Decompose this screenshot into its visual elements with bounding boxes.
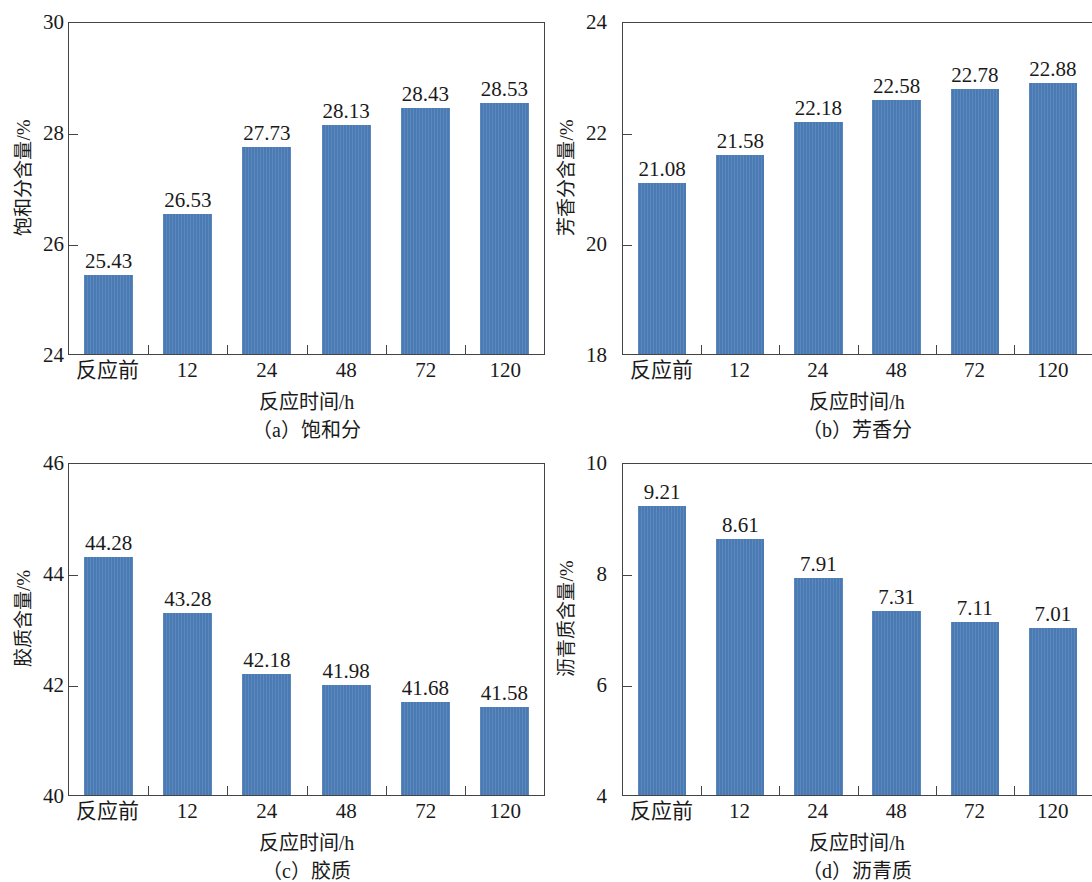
x-axis-tick-label: 120	[1037, 801, 1069, 822]
bar	[951, 89, 999, 354]
x-axis-tick-label: 48	[336, 360, 357, 381]
y-axis-tick-label: 30	[43, 12, 64, 33]
x-axis-tick-labels: 反应前12244872120	[622, 801, 1092, 831]
y-axis-tick	[69, 245, 78, 246]
bar	[794, 578, 842, 795]
bar-value-label: 7.11	[957, 598, 993, 619]
x-axis-tick-label: 72	[415, 801, 436, 822]
bar	[951, 622, 999, 795]
bar-value-label: 43.28	[164, 589, 211, 610]
y-axis-tick	[623, 575, 632, 576]
chart-panel-b: 芳香分含量/% 24222018 21.0821.5822.1822.5822.…	[543, 0, 1086, 441]
x-axis-tick-label: 48	[886, 801, 907, 822]
x-axis-tick	[701, 345, 702, 354]
x-axis-tick-label: 72	[415, 360, 436, 381]
y-axis-tick-label: 24	[43, 345, 64, 366]
panel-caption: （c）胶质	[68, 861, 545, 881]
x-axis-tick-label: 反应前	[76, 801, 139, 822]
y-axis-tick-label: 6	[597, 675, 608, 696]
bar	[716, 155, 764, 354]
bar	[638, 183, 686, 354]
x-axis-tick-labels: 反应前12244872120	[68, 360, 545, 390]
x-axis-tick-label: 24	[256, 360, 277, 381]
y-axis-tick	[69, 134, 78, 135]
bar-value-label: 41.68	[402, 678, 449, 699]
x-axis-tick-label: 72	[964, 801, 985, 822]
bar-value-label: 28.13	[322, 101, 369, 122]
bar	[872, 100, 920, 354]
bar	[322, 125, 371, 354]
bar	[84, 275, 133, 354]
bar-value-label: 22.78	[951, 65, 998, 86]
bar	[638, 506, 686, 795]
bar	[794, 122, 842, 354]
chart-panel-a: 饱和分含量/% 30282624 25.4326.5327.7328.1328.…	[0, 0, 543, 441]
x-axis-title: 反应时间/h	[622, 392, 1092, 412]
x-axis-tick	[148, 786, 149, 795]
plot-area: 44.2843.2842.1841.9841.6841.58	[68, 463, 545, 796]
bar	[716, 539, 764, 795]
y-axis-tick-label: 8	[597, 564, 608, 585]
y-axis-tick-labels: 10864	[569, 441, 607, 801]
plot-area: 21.0821.5822.1822.5822.7822.88	[622, 22, 1092, 355]
y-axis-tick-label: 42	[43, 675, 64, 696]
bar-value-label: 44.28	[85, 533, 132, 554]
y-axis-tick	[69, 575, 78, 576]
x-axis-tick-label: 12	[177, 360, 198, 381]
bar	[1029, 628, 1077, 795]
plot-area: 25.4326.5327.7328.1328.4328.53	[68, 22, 545, 355]
y-axis-tick-label: 20	[586, 234, 607, 255]
x-axis-tick-label: 48	[886, 360, 907, 381]
x-axis-tick-label: 12	[729, 360, 750, 381]
y-axis-tick-label: 46	[43, 453, 64, 474]
panel-caption: （a）饱和分	[68, 420, 545, 440]
x-axis-tick	[936, 786, 937, 795]
bar-value-label: 26.53	[164, 190, 211, 211]
bar	[84, 557, 133, 795]
bar	[242, 147, 291, 354]
chart-panel-c: 胶质含量/% 46444240 44.2843.2842.1841.9841.6…	[0, 441, 543, 882]
bar-value-label: 41.98	[322, 661, 369, 682]
x-axis-tick	[148, 345, 149, 354]
bar	[322, 685, 371, 795]
bar-value-label: 8.61	[722, 515, 759, 536]
x-axis-tick-label: 24	[256, 801, 277, 822]
x-axis-tick-labels: 反应前12244872120	[68, 801, 545, 831]
y-axis-tick	[623, 686, 632, 687]
x-axis-tick-label: 反应前	[76, 360, 139, 381]
bar-value-label: 28.53	[481, 79, 528, 100]
y-axis-tick-label: 22	[586, 123, 607, 144]
x-axis-tick	[465, 786, 466, 795]
x-axis-tick	[386, 786, 387, 795]
bar-value-label: 7.01	[1035, 604, 1072, 625]
x-axis-tick-label: 120	[490, 801, 522, 822]
y-axis-tick-label: 10	[586, 453, 607, 474]
bar-value-label: 22.88	[1029, 59, 1076, 80]
x-axis-tick-label: 120	[1037, 360, 1069, 381]
x-axis-tick-label: 72	[964, 360, 985, 381]
y-axis-tick-labels: 46444240	[26, 441, 64, 801]
bar-value-label: 22.58	[873, 76, 920, 97]
x-axis-tick-label: 12	[729, 801, 750, 822]
x-axis-tick	[1014, 786, 1015, 795]
x-axis-tick-label: 反应前	[630, 801, 693, 822]
x-axis-tick	[779, 786, 780, 795]
plot-area: 9.218.617.917.317.117.01	[622, 463, 1092, 796]
x-axis-tick-labels: 反应前12244872120	[622, 360, 1092, 390]
y-axis-tick	[623, 134, 632, 135]
x-axis-tick	[858, 345, 859, 354]
x-axis-tick	[1014, 345, 1015, 354]
y-axis-tick	[623, 245, 632, 246]
x-axis-tick-label: 24	[807, 801, 828, 822]
x-axis-tick	[307, 345, 308, 354]
x-axis-tick	[858, 786, 859, 795]
x-axis-tick-label: 反应前	[630, 360, 693, 381]
bar	[872, 611, 920, 795]
bar-value-label: 9.21	[644, 482, 681, 503]
x-axis-tick	[936, 345, 937, 354]
bar	[480, 707, 529, 795]
bar-value-label: 42.18	[243, 650, 290, 671]
x-axis-title: 反应时间/h	[68, 833, 545, 853]
bar-value-label: 28.43	[402, 84, 449, 105]
